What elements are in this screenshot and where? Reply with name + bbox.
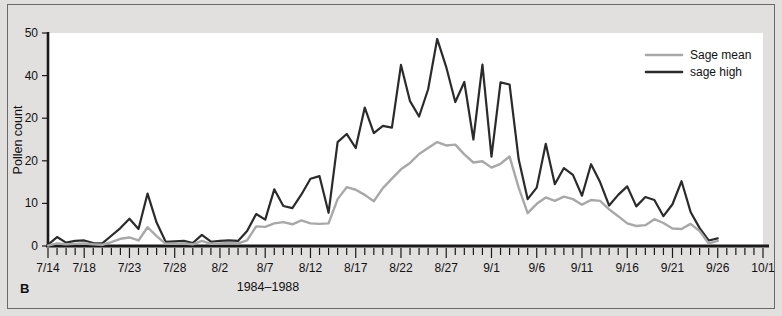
x-axis-tick-label: 9/6 [528,261,545,275]
x-axis-tick-label: 7/28 [163,261,187,275]
x-axis-tick-label: 8/17 [344,261,368,275]
x-axis-tick-label: 8/12 [299,261,323,275]
x-axis-tick-label: 8/27 [435,261,459,275]
x-axis-tick-label: 10/1 [751,261,775,275]
legend-label-sage-mean: Sage mean [690,48,751,62]
y-axis-tick-label: 50 [25,26,39,40]
plot-area [48,33,763,246]
x-axis-tick-label: 7/14 [36,261,60,275]
y-axis-tick-label: 40 [25,69,39,83]
x-axis-tick-label: 7/18 [73,261,97,275]
x-axis: 7/147/187/237/288/28/78/128/178/228/279/… [36,246,775,275]
pollen-count-line-chart: 01020204050 7/147/187/237/288/28/78/128/… [0,0,782,316]
x-axis-tick-label: 9/21 [661,261,685,275]
x-axis-tick-label: 7/23 [118,261,142,275]
x-axis-tick-label: 9/26 [706,261,730,275]
x-axis-tick-label: 9/11 [571,261,594,275]
y-axis-tick-label: 20 [25,111,39,125]
x-axis-tick-label: 9/1 [483,261,500,275]
x-axis-tick-label: 8/2 [212,261,229,275]
x-axis-tick-label: 8/22 [389,261,413,275]
y-axis-tick-label: 0 [31,239,38,253]
y-axis-title: Pollen count [11,105,25,174]
y-axis-tick-label: 20 [25,154,39,168]
y-axis: 01020204050 [25,26,48,253]
panel-letter: B [20,281,29,296]
x-axis-tick-label: 8/7 [257,261,274,275]
x-axis-title: 1984–1988 [237,280,300,294]
y-axis-tick-label: 10 [25,196,39,210]
legend-label-sage-high: sage high [690,65,742,79]
x-axis-tick-label: 9/16 [616,261,640,275]
plot-background [48,33,763,246]
figure-container: 01020204050 7/147/187/237/288/28/78/128/… [0,0,782,316]
